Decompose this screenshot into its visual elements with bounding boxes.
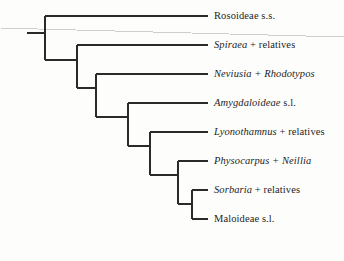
taxon-name-regular: Maloideae s.l. [214, 213, 275, 224]
tip-label-neviusia-rhodotypos: Neviusia + Rhodotypos [214, 69, 315, 80]
scan-crease-line [0, 28, 344, 37]
tip-label-sorbaria: Sorbaria + relatives [214, 185, 300, 196]
tip-label-lyonothamnus: Lyonothamnus + relatives [214, 127, 325, 138]
tip-label-physocarpus-neillia: Physocarpus + Neillia [214, 156, 311, 167]
taxon-name-regular: + relatives [252, 184, 300, 195]
taxon-name-italic: Spiraea [214, 39, 247, 50]
tip-label-maloideae: Maloideae s.l. [214, 214, 275, 225]
tip-label-rosoideae: Rosoideae s.s. [214, 11, 275, 22]
taxon-name-regular: + relatives [277, 126, 325, 137]
phylogenetic-tree-figure: Rosoideae s.s.Spiraea + relativesNeviusi… [0, 0, 344, 261]
taxon-name-italic: Amygdaloideae [214, 97, 281, 108]
taxon-name-italic: Physocarpus + Neillia [214, 155, 311, 166]
scan-crease-line [0, 28, 344, 37]
branch-lines [27, 16, 208, 219]
taxon-name-italic: Lyonothamnus [214, 126, 277, 137]
taxon-name-regular: Rosoideae s.s. [214, 10, 275, 21]
taxon-name-regular: s.l. [281, 97, 296, 108]
taxon-name-italic: Sorbaria [214, 184, 252, 195]
taxon-name-regular: + relatives [247, 39, 295, 50]
taxon-name-italic: Neviusia + Rhodotypos [214, 68, 315, 79]
tip-label-amygdaloideae: Amygdaloideae s.l. [214, 98, 296, 109]
tip-label-spiraea: Spiraea + relatives [214, 40, 295, 51]
